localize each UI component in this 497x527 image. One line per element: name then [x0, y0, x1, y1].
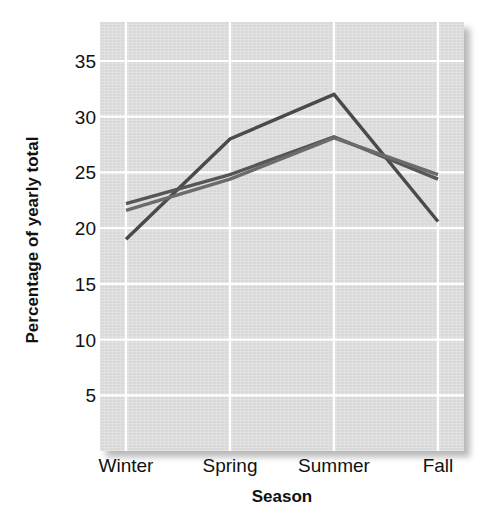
y-axis-tick-labels: 3530252015105 — [52, 22, 96, 450]
x-axis-tick-labels: WinterSpringSummerFall — [100, 455, 464, 485]
x-tick-label: Spring — [203, 455, 258, 478]
x-tick-label: Fall — [423, 455, 454, 478]
data-line-series-3 — [126, 138, 438, 210]
y-tick-label: 30 — [52, 107, 96, 126]
plot-svg — [100, 22, 464, 451]
plot-panel — [100, 22, 464, 451]
x-axis-title: Season — [100, 487, 464, 507]
y-tick-label: 20 — [52, 219, 96, 238]
y-tick-label: 15 — [52, 274, 96, 293]
y-tick-label: 35 — [52, 52, 96, 71]
y-tick-label: 10 — [52, 330, 96, 349]
x-tick-label: Winter — [99, 455, 154, 478]
chart-figure: Percentage of yearly total 3530252015105… — [0, 0, 497, 527]
y-axis-title: Percentage of yearly total — [23, 70, 43, 410]
x-tick-label: Summer — [298, 455, 370, 478]
plot-area — [100, 22, 464, 451]
y-tick-label: 5 — [52, 386, 96, 405]
y-tick-label: 25 — [52, 163, 96, 182]
